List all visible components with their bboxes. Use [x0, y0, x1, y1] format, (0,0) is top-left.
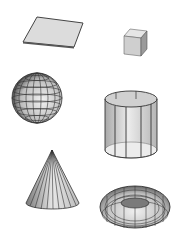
primitives-canvas: [0, 0, 177, 250]
sphere-shape[interactable]: [12, 73, 62, 123]
cube-shape[interactable]: [124, 29, 147, 56]
cone-shape[interactable]: [26, 150, 79, 209]
plane-shape[interactable]: [23, 17, 83, 49]
torus-shape[interactable]: [100, 186, 170, 228]
cylinder-shape[interactable]: [105, 91, 157, 158]
